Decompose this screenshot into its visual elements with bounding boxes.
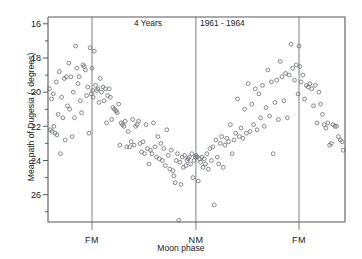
data-point	[230, 152, 234, 156]
data-point	[144, 123, 148, 127]
data-point	[243, 107, 247, 111]
data-point	[206, 167, 210, 171]
data-point	[204, 162, 208, 166]
data-point	[289, 42, 293, 46]
y-tick-label-5: 26	[31, 190, 41, 200]
data-point	[52, 124, 56, 128]
data-point	[56, 112, 60, 116]
data-point	[172, 174, 176, 178]
data-point	[326, 121, 330, 125]
data-point	[150, 152, 154, 156]
data-point	[227, 140, 231, 144]
data-point	[223, 143, 227, 147]
x-tick-label-fm-2: FM	[292, 235, 306, 245]
data-point	[129, 140, 133, 144]
axis-labels-group: 161820222426FMNMFM	[31, 19, 306, 245]
data-point	[301, 73, 305, 77]
data-point	[94, 83, 98, 87]
data-point	[102, 99, 106, 103]
data-point	[319, 102, 323, 106]
data-point	[50, 97, 54, 101]
data-point	[269, 80, 273, 84]
data-point	[80, 111, 84, 115]
data-point	[71, 90, 75, 94]
data-point	[176, 152, 180, 156]
data-point	[201, 165, 205, 169]
data-point	[59, 152, 63, 156]
data-point	[228, 123, 232, 127]
data-point	[143, 152, 147, 156]
data-point	[147, 162, 151, 166]
data-point	[291, 66, 295, 70]
data-point	[87, 131, 91, 135]
data-point	[75, 66, 79, 70]
data-point	[85, 94, 89, 98]
data-point	[132, 143, 136, 147]
y-tick-label-3: 22	[31, 122, 41, 132]
data-point	[234, 131, 238, 135]
data-point	[257, 92, 261, 96]
data-point	[232, 138, 236, 142]
data-point	[321, 112, 325, 116]
data-point	[57, 70, 61, 74]
data-point	[189, 162, 193, 166]
data-point	[280, 75, 284, 79]
axis-ticks-group	[43, 24, 48, 212]
data-point	[131, 118, 135, 122]
data-point	[310, 87, 314, 91]
data-point	[91, 89, 95, 93]
data-point	[259, 116, 263, 120]
data-point	[271, 152, 275, 156]
data-point	[163, 164, 167, 168]
data-point	[218, 142, 222, 146]
data-point	[246, 82, 250, 86]
data-point	[252, 123, 256, 127]
data-point	[212, 203, 216, 207]
data-point	[308, 82, 312, 86]
data-point	[152, 121, 156, 125]
x-tick-label-nm-1: NM	[189, 235, 204, 245]
data-point	[215, 155, 219, 159]
data-point	[171, 169, 175, 173]
data-point	[298, 65, 302, 69]
data-point	[78, 99, 82, 103]
data-point	[162, 147, 166, 151]
data-point	[299, 80, 303, 84]
data-point	[278, 60, 282, 64]
data-point	[77, 75, 81, 79]
data-point	[86, 85, 90, 89]
data-point	[312, 104, 316, 108]
chart-figure: 161820222426FMNMFM 4 Years 1961 - 1964 M…	[0, 0, 362, 259]
data-point	[190, 152, 194, 156]
data-point	[178, 160, 182, 164]
data-point	[214, 138, 218, 142]
data-point	[67, 61, 71, 65]
data-point	[255, 128, 259, 132]
data-point	[266, 68, 270, 72]
data-point	[126, 130, 130, 134]
data-point	[173, 181, 177, 185]
data-point	[73, 116, 77, 120]
data-point	[239, 126, 243, 130]
data-point	[107, 87, 111, 91]
data-point	[248, 130, 252, 134]
data-point	[317, 90, 321, 94]
data-point	[60, 95, 64, 99]
data-point	[313, 83, 317, 87]
data-point	[105, 121, 109, 125]
data-point	[287, 73, 291, 77]
data-point	[153, 145, 157, 149]
data-point	[51, 92, 55, 96]
data-point	[211, 145, 215, 149]
x-tick-label-fm-0: FM	[85, 235, 99, 245]
data-point	[160, 159, 164, 163]
data-point	[293, 78, 297, 82]
data-point	[110, 118, 114, 122]
data-point	[261, 83, 265, 87]
data-point	[74, 44, 78, 48]
data-point	[123, 119, 127, 123]
data-point	[199, 160, 203, 164]
data-point	[137, 119, 141, 123]
data-point	[285, 116, 289, 120]
data-point	[273, 101, 277, 105]
